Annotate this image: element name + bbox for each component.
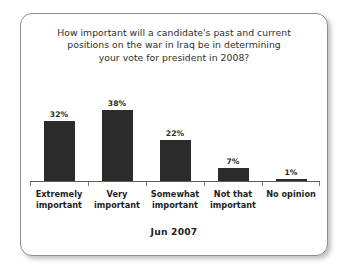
axis-tick xyxy=(262,182,263,186)
x-axis-ticks xyxy=(30,182,320,186)
category-label-no-opinion: No opinion xyxy=(262,189,320,210)
bar-value-label: 32% xyxy=(50,110,68,119)
chart-footer-date: Jun 2007 xyxy=(21,226,327,237)
axis-tick xyxy=(146,182,147,186)
category-label-somewhat-important: Somewhat important xyxy=(146,189,204,210)
bar-rect xyxy=(102,110,133,181)
bar-value-label: 7% xyxy=(226,157,239,166)
bar-value-label: 22% xyxy=(166,129,184,138)
bar-series: 32% 38% 22% 7% 1% xyxy=(30,99,320,181)
category-label-very-important: Very important xyxy=(88,189,146,210)
category-label-line: important xyxy=(204,200,262,211)
bar-group-no-opinion: 1% xyxy=(262,99,320,181)
chart-title-line-1: How important will a candidate's past an… xyxy=(37,27,311,39)
poll-chart-card: How important will a candidate's past an… xyxy=(20,13,328,256)
bar-group-extremely-important: 32% xyxy=(30,99,88,181)
category-label-line: Very xyxy=(88,189,146,200)
chart-title-line-2: positions on the war in Iraq be in deter… xyxy=(37,39,311,51)
category-label-line: Extremely xyxy=(30,189,88,200)
category-label-line: Not that xyxy=(204,189,262,200)
category-label-not-that-important: Not that important xyxy=(204,189,262,210)
category-label-line: Somewhat xyxy=(146,189,204,200)
bar-group-somewhat-important: 22% xyxy=(146,99,204,181)
category-label-extremely-important: Extremely important xyxy=(30,189,88,210)
bar-value-label: 38% xyxy=(108,99,126,108)
category-label-line: No opinion xyxy=(262,189,320,200)
chart-plot-area: 32% 38% 22% 7% 1% xyxy=(30,99,320,181)
chart-title-line-3: your vote for president in 2008? xyxy=(37,52,311,64)
axis-tick xyxy=(88,182,89,186)
bar-value-label: 1% xyxy=(284,168,297,177)
bar-group-not-that-important: 7% xyxy=(204,99,262,181)
bar-rect xyxy=(44,121,75,181)
bar-group-very-important: 38% xyxy=(88,99,146,181)
category-label-line: important xyxy=(146,200,204,211)
axis-tick xyxy=(204,182,205,186)
category-label-line: important xyxy=(88,200,146,211)
axis-tick xyxy=(30,182,31,186)
category-label-line: important xyxy=(30,200,88,211)
axis-tick xyxy=(319,182,320,186)
bar-rect xyxy=(160,140,191,181)
chart-title: How important will a candidate's past an… xyxy=(37,27,311,64)
bar-rect xyxy=(218,168,249,181)
x-axis-category-labels: Extremely important Very important Somew… xyxy=(30,189,320,210)
